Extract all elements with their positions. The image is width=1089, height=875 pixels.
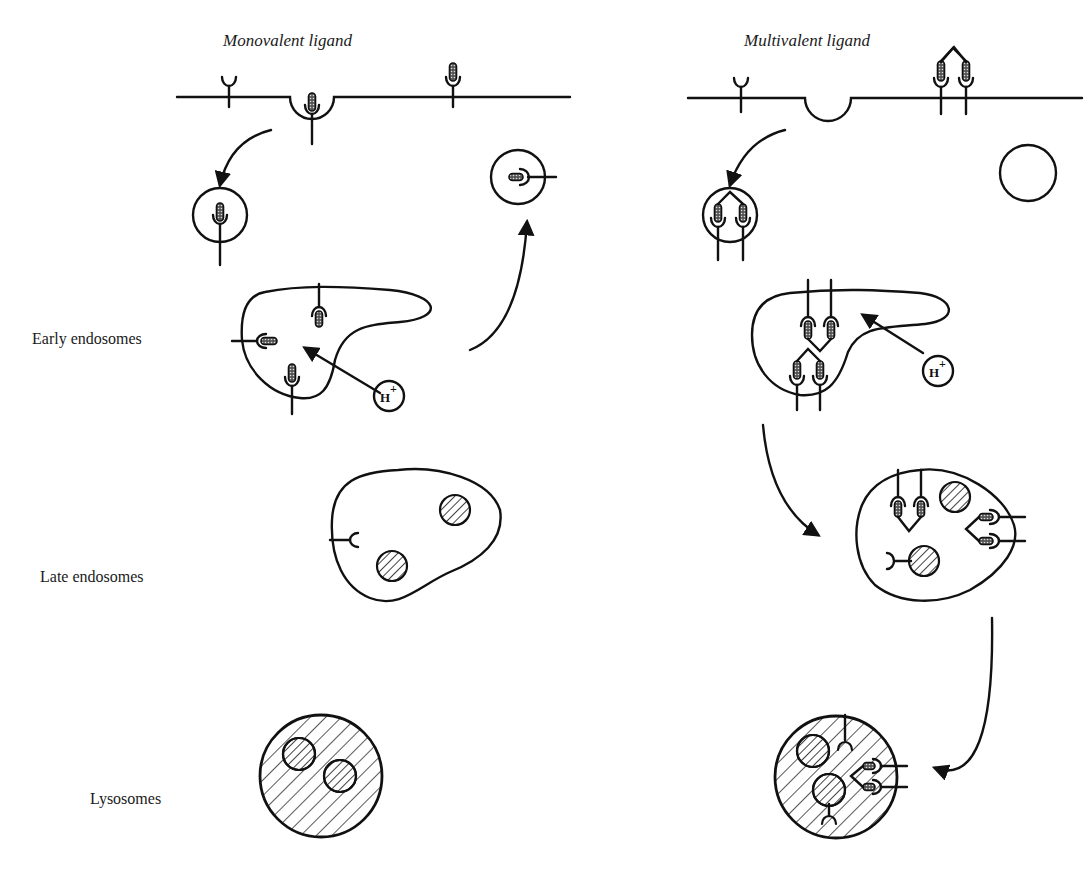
endocytosis-diagram: H + H + — [0, 0, 1089, 875]
multivalent-column — [688, 47, 1082, 838]
lysosome-mono — [260, 715, 382, 837]
svg-text:+: + — [939, 357, 946, 371]
early-endosome-multi — [752, 290, 949, 395]
monovalent-column — [177, 63, 570, 837]
proton-icon-mono: H + — [380, 382, 397, 405]
svg-text:+: + — [390, 382, 397, 396]
svg-text:H: H — [380, 390, 390, 405]
plasma-membrane-mono — [177, 97, 570, 119]
vesicle-multi — [703, 188, 757, 242]
proton-icon-multi: H + — [929, 357, 946, 380]
recycling-vesicle-multi — [1000, 145, 1056, 201]
plasma-membrane-multi — [688, 98, 1082, 121]
svg-text:H: H — [929, 365, 939, 380]
late-endosome-mono — [332, 469, 501, 601]
